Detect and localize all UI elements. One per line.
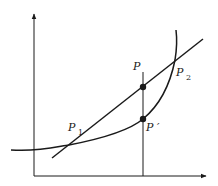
label-p-prime: P ′: [145, 121, 160, 134]
label-p1: P: [67, 121, 76, 134]
secant-line: [52, 39, 203, 158]
diagram-svg: P P 1 P 2 P ′: [0, 0, 218, 186]
label-p1-subscript: 1: [78, 128, 83, 137]
label-p: P: [132, 60, 141, 73]
label-p2-subscript: 2: [186, 73, 191, 82]
point-p: [140, 84, 146, 90]
diagram-canvas: P P 1 P 2 P ′: [0, 0, 218, 186]
label-p2: P: [175, 66, 184, 79]
